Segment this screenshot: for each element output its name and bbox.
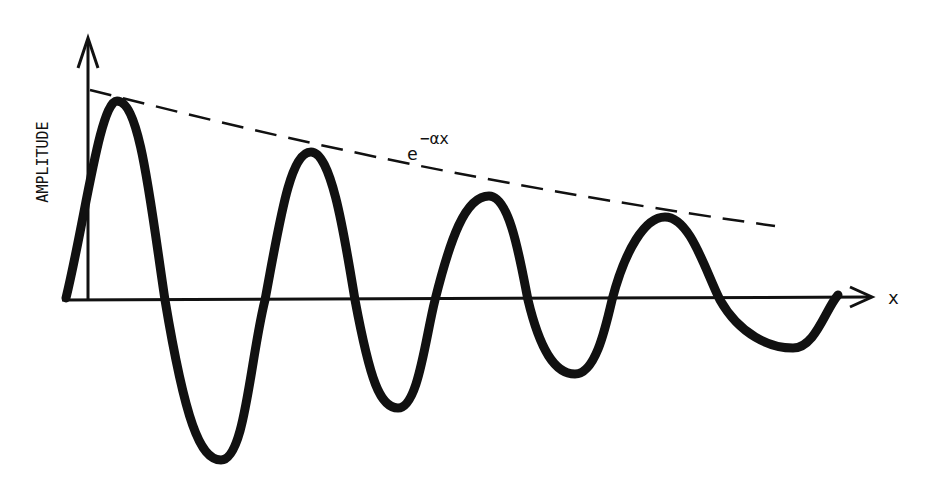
envelope-curve	[90, 90, 775, 226]
damped-wave-diagram: AMPLITUDE x e −αx	[0, 0, 936, 482]
y-axis-label: AMPLITUDE	[34, 121, 52, 202]
x-axis	[62, 287, 872, 307]
envelope-label: e −αx	[407, 129, 449, 164]
x-axis-label: x	[888, 287, 899, 308]
damped-wave-curve	[66, 101, 838, 460]
envelope-label-exponent: −αx	[420, 129, 449, 148]
envelope-label-base: e	[407, 143, 418, 164]
